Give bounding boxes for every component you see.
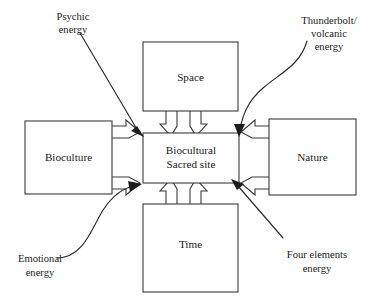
- label-emotional-energy: Emotional energy: [18, 253, 62, 278]
- label-psychic-energy: Psychic energy: [57, 11, 90, 35]
- node-space[interactable]: Space: [143, 42, 238, 111]
- psychic-energy-line1: Psychic: [57, 11, 90, 22]
- emotional-energy-line1: Emotional: [18, 253, 62, 264]
- node-space-label: Space: [177, 71, 204, 83]
- four-elements-energy-line1: Four elements: [287, 249, 347, 260]
- node-bioculture-label: Bioculture: [45, 151, 92, 163]
- node-bioculture[interactable]: Bioculture: [25, 121, 112, 194]
- connector-nature-to-center: [241, 120, 270, 195]
- diagram-svg: Space Time Bioculture Nature Biocultural…: [0, 0, 377, 299]
- psychic-energy-line2: energy: [59, 24, 88, 35]
- center-label-line2: Sacred site: [167, 158, 216, 170]
- node-biocultural-sacred-site[interactable]: Biocultural Sacred site: [143, 133, 239, 183]
- diagram-canvas: Space Time Bioculture Nature Biocultural…: [0, 0, 377, 299]
- node-time-label: Time: [179, 238, 202, 250]
- thunderbolt-energy-line3: energy: [315, 41, 344, 52]
- label-thunderbolt-volcanic-energy: Thunderbolt/ volcanic energy: [301, 15, 356, 52]
- center-label-line1: Biocultural: [166, 144, 216, 156]
- node-nature[interactable]: Nature: [269, 119, 356, 195]
- connector-space-to-center: [160, 110, 207, 136]
- emotional-energy-line2: energy: [26, 267, 55, 278]
- node-time[interactable]: Time: [143, 204, 238, 292]
- label-four-elements-energy: Four elements energy: [287, 249, 347, 274]
- node-nature-label: Nature: [297, 151, 327, 163]
- four-elements-energy-line2: energy: [303, 263, 332, 274]
- thunderbolt-energy-line1: Thunderbolt/: [301, 15, 356, 26]
- thunderbolt-energy-line2: volcanic: [311, 28, 347, 39]
